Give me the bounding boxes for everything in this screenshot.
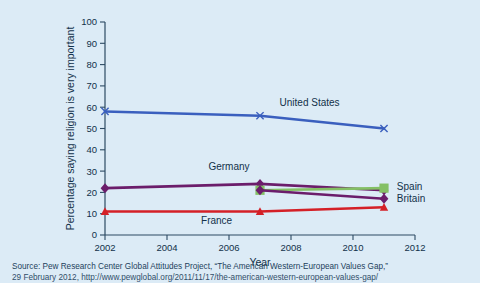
y-tick-label: 80: [86, 59, 97, 70]
chart-axes: 0102030405060708090100200220042006200820…: [64, 16, 426, 268]
series-label-spain: Spain: [397, 181, 423, 192]
y-tick-label: 60: [86, 102, 97, 113]
y-axis-title: Percentage saying religion is very impor…: [64, 27, 76, 231]
y-tick-label: 70: [86, 80, 97, 91]
x-tick-label: 2008: [280, 242, 301, 253]
series-france: [101, 203, 388, 215]
series-line: [260, 190, 384, 199]
y-tick-label: 10: [86, 208, 97, 219]
y-tick-label: 90: [86, 38, 97, 49]
series-united-states: [101, 108, 387, 132]
chart-figure: 0102030405060708090100200220042006200820…: [0, 0, 480, 283]
y-tick-label: 50: [86, 123, 97, 134]
y-tick-label: 40: [86, 144, 97, 155]
x-tick-label: 2002: [94, 242, 115, 253]
y-tick-label: 0: [92, 229, 97, 240]
series-line: [105, 207, 384, 211]
x-tick-label: 2004: [156, 242, 177, 253]
series-label-united-states: United States: [280, 97, 340, 108]
source-line-1: Source: Pew Research Center Global Attit…: [12, 262, 388, 271]
series-label-france: France: [201, 215, 233, 226]
series-line: [105, 111, 384, 128]
chart-labels: United StatesGermanySpainBritainFrance: [201, 97, 425, 225]
y-tick-label: 30: [86, 166, 97, 177]
line-chart: 0102030405060708090100200220042006200820…: [0, 0, 480, 283]
y-tick-label: 100: [81, 16, 97, 27]
series-germany: [101, 179, 389, 195]
data-marker-square: [379, 184, 388, 193]
series-label-germany: Germany: [208, 161, 249, 172]
x-tick-label: 2012: [404, 242, 425, 253]
source-note: Source: Pew Research Center Global Attit…: [12, 262, 472, 283]
source-line-2: 29 February 2012, http://www.pewglobal.o…: [12, 273, 472, 283]
y-tick-label: 20: [86, 187, 97, 198]
data-marker-diamond: [380, 194, 389, 204]
series-label-britain: Britain: [397, 193, 425, 204]
x-tick-label: 2010: [342, 242, 363, 253]
data-marker-diamond: [101, 183, 110, 193]
x-tick-label: 2006: [218, 242, 239, 253]
